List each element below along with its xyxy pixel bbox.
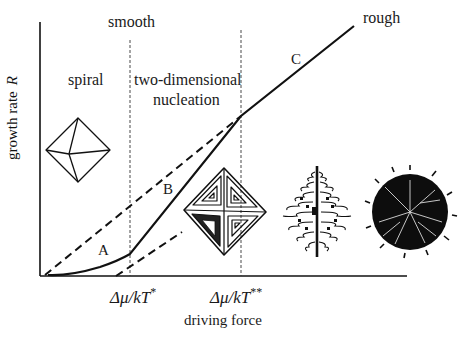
threshold-tick-2-sup: **: [250, 285, 262, 299]
y-axis-label-symbol: R: [4, 76, 20, 85]
curve-label-c: C: [291, 52, 301, 67]
rough-label: rough: [363, 10, 400, 26]
spiral-region-label: spiral: [68, 72, 104, 88]
threshold-tick-2-text: Δμ/kT: [210, 288, 250, 307]
y-axis-label: growth rateR: [4, 76, 21, 160]
y-axis-label-text: growth rate: [4, 91, 20, 160]
octahedron-wireframe-icon: [46, 118, 110, 182]
growth-rate-curve: [48, 26, 354, 275]
smooth-label: smooth: [108, 14, 155, 30]
curve-label-b: B: [163, 182, 173, 197]
nucleation-region-label-line2: nucleation: [153, 92, 220, 108]
octahedron-hopper-icon: [184, 168, 266, 255]
threshold-tick-1-text: Δμ/kT: [110, 288, 150, 307]
threshold-tick-2: Δμ/kT**: [210, 286, 262, 306]
dendritic-crystal-icon: [283, 166, 351, 257]
spherulite-icon: [365, 165, 457, 258]
nucleation-tangent-line: [116, 232, 182, 276]
threshold-tick-1-sup: *: [150, 285, 156, 299]
x-axis-label: driving force: [184, 313, 262, 328]
curve-label-a: A: [98, 243, 109, 258]
nucleation-region-label-line1: two-dimensional: [134, 72, 242, 88]
threshold-tick-1: Δμ/kT*: [110, 286, 156, 306]
